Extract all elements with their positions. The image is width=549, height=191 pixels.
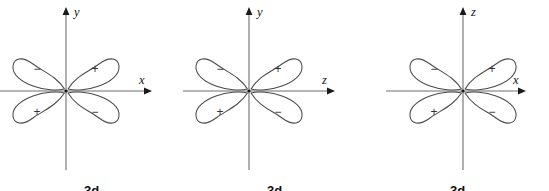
- sign-upper-left: −: [430, 62, 437, 76]
- horizontal-axis-label: x: [138, 73, 145, 87]
- sign-lower-right: −: [488, 105, 495, 119]
- panel-2-caption-text: 3d: [267, 184, 282, 191]
- origin-point: [247, 89, 250, 92]
- panel-3-diagram: − + + − z x: [366, 0, 549, 191]
- horizontal-axis-label: x: [512, 73, 519, 87]
- sign-upper-right: +: [91, 62, 98, 76]
- panel-3-caption: 3d: [366, 181, 549, 191]
- orbital-panel-2: − + + − y z 3d: [183, 0, 366, 191]
- sign-lower-right: −: [91, 105, 98, 119]
- sign-upper-right: +: [488, 62, 495, 76]
- horizontal-axis-arrow-icon: [144, 87, 152, 94]
- panel-3-caption-text: 3d: [450, 184, 465, 191]
- orbital-figure: − + + − y x 3d − + + − y z: [0, 0, 549, 191]
- vertical-axis-label: z: [470, 5, 476, 19]
- panel-2-diagram: − + + − y z: [183, 0, 366, 191]
- panel-1-caption: 3d: [0, 181, 183, 191]
- vertical-axis-arrow-icon: [63, 7, 70, 15]
- sign-upper-left: −: [33, 62, 40, 76]
- origin-point: [461, 89, 464, 92]
- orbital-panel-1: − + + − y x 3d: [0, 0, 183, 191]
- sign-upper-right: +: [274, 62, 281, 76]
- sign-lower-left: +: [33, 105, 40, 119]
- horizontal-axis-arrow-icon: [327, 87, 335, 94]
- horizontal-axis-arrow-icon: [518, 87, 526, 94]
- panel-1-caption-text: 3d: [84, 184, 99, 191]
- vertical-axis-arrow-icon: [460, 7, 467, 15]
- vertical-axis-label: y: [72, 5, 80, 19]
- vertical-axis-label: y: [255, 5, 263, 19]
- panel-1-diagram: − + + − y x: [0, 0, 183, 191]
- sign-lower-right: −: [274, 105, 281, 119]
- vertical-axis-arrow-icon: [246, 7, 253, 15]
- orbital-panel-3: − + + − z x 3d: [366, 0, 549, 191]
- sign-lower-left: +: [430, 105, 437, 119]
- sign-lower-left: +: [216, 105, 223, 119]
- origin-point: [64, 89, 67, 92]
- panel-2-caption: 3d: [183, 181, 366, 191]
- sign-upper-left: −: [216, 62, 223, 76]
- horizontal-axis-label: z: [321, 73, 327, 87]
